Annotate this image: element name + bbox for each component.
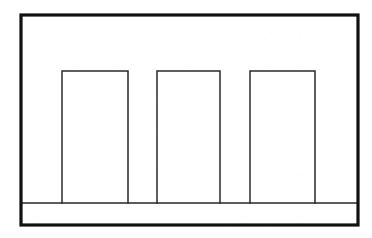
- figure-canvas: [0, 0, 372, 238]
- line-drawing-figure: [0, 0, 372, 238]
